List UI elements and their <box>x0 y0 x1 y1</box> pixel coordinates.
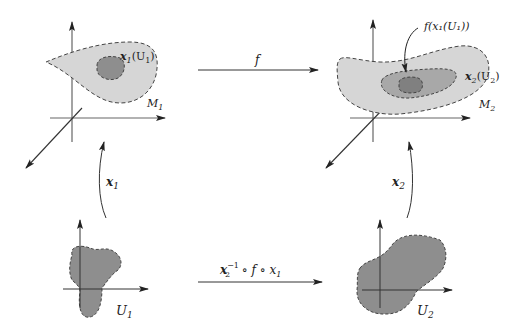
manifold-m2-group: f(x₁(U₁)) x2(U2) M2 <box>326 20 500 168</box>
region-u2 <box>357 235 446 314</box>
label-f: f <box>254 53 262 67</box>
label-u2: U2 <box>417 303 434 320</box>
label-m1: M1 <box>146 97 163 112</box>
label-x2: x2 <box>391 175 405 191</box>
arrow-x1 <box>99 142 106 218</box>
arrow-x2 <box>407 142 413 218</box>
label-transition-map: x−12 ∘ f ∘ x1 <box>219 261 281 279</box>
region-u1 <box>70 246 121 317</box>
manifold-m1-group: x1(U1) M1 <box>26 22 165 168</box>
chart-domain-u1-group: U1 <box>63 220 148 320</box>
m2-axis-depth <box>326 107 385 168</box>
chart-domain-u2-group: U2 <box>357 220 452 320</box>
label-m2: M2 <box>478 98 495 113</box>
m1-axis-depth <box>26 108 82 168</box>
label-f-x1-u1: f(x₁(U₁)) <box>423 20 470 33</box>
label-x1: x1 <box>105 175 119 191</box>
label-u1: U1 <box>116 303 133 320</box>
diagram-canvas: x1(U1) M1 f(x₁(U₁)) x2(U2) M2 f x1 x2 <box>0 0 513 332</box>
label-x2-u2: x2(U2) <box>464 70 500 85</box>
image-f-x1-u1 <box>399 77 423 93</box>
